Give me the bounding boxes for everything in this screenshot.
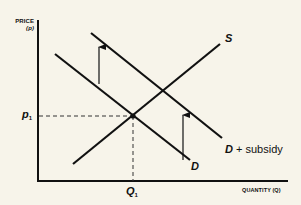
y-axis-label-line2: (p) (15, 25, 34, 32)
supply-label: S (225, 32, 232, 44)
x-axis-label: QUANTITY (Q) (242, 187, 281, 193)
demand-label: D (191, 160, 199, 172)
p1-label: p1 (22, 108, 32, 121)
supply-curve (73, 44, 220, 164)
demand-subsidy-curve (91, 33, 222, 138)
y-axis-label-line1: PRICE (15, 18, 34, 25)
demand-curve (55, 54, 190, 160)
y-axis-label: PRICE (p) (15, 18, 34, 32)
q1-label: Q1 (126, 185, 138, 198)
equilibrium-point (130, 113, 135, 118)
demand-subsidy-label: D + subsidy (225, 139, 283, 157)
diagram-canvas (0, 0, 301, 205)
